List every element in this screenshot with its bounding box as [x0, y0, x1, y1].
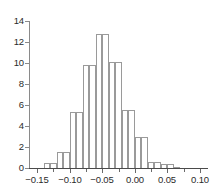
histogram-bar [70, 112, 77, 168]
histogram-bar [128, 110, 135, 168]
histogram-bar [102, 34, 109, 168]
histogram-bar [115, 62, 122, 168]
histogram-bar [83, 65, 90, 168]
histogram-bar [174, 167, 181, 168]
histogram-bars [0, 0, 215, 194]
histogram-bar [135, 137, 142, 169]
histogram-bar [96, 34, 103, 168]
histogram-bar [148, 162, 155, 168]
histogram-bar [161, 164, 168, 168]
histogram-bar [57, 152, 64, 168]
histogram-bar [50, 163, 57, 168]
histogram-figure: 02468101214 −0.15−0.10−0.050.000.050.10 [0, 0, 215, 194]
